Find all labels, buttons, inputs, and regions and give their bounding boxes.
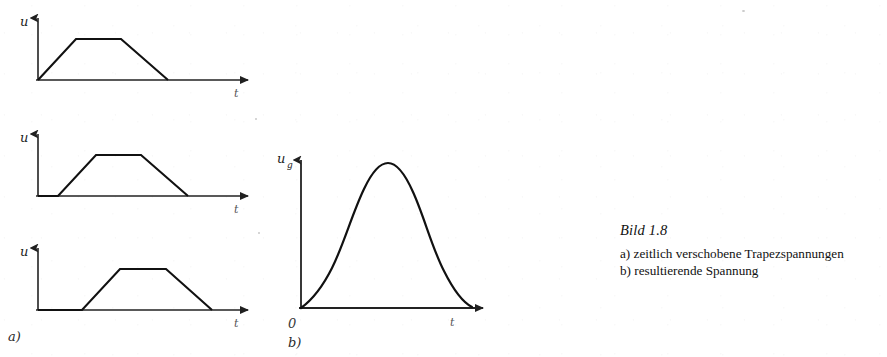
trapezoid-waveform-1: [38, 39, 168, 80]
y-axis-label-3: u: [20, 244, 28, 259]
figure-drawing: u t u t u t a) u g 0 t: [0, 0, 887, 357]
x-axis-label-2: t: [234, 203, 239, 216]
scan-speck: [742, 10, 745, 12]
y-axis-label-2: u: [20, 130, 28, 145]
scan-speck: [255, 118, 257, 120]
chart-trapezoid-3: u t: [20, 244, 248, 330]
y-axis-label-1: u: [20, 14, 28, 29]
chart-trapezoid-1: u t: [20, 14, 248, 100]
x-axis-label-3: t: [234, 317, 239, 330]
y-axis-label-b: u: [277, 151, 285, 166]
trapezoid-waveform-3: [38, 269, 212, 310]
x-axis-label-b: t: [450, 316, 455, 329]
figure-caption: Bild 1.8 a) zeitlich verschobene Trapezs…: [620, 222, 882, 279]
caption-title: Bild 1.8: [620, 222, 882, 239]
origin-label-b: 0: [288, 316, 296, 331]
caption-line-a: a) zeitlich verschobene Trapezspannungen: [620, 246, 882, 263]
caption-line-b: b) resultierende Spannung: [620, 263, 882, 280]
resultant-waveform: [301, 163, 472, 308]
x-axis-label-1: t: [234, 87, 239, 100]
panel-label-a: a): [8, 329, 21, 344]
trapezoid-waveform-2: [38, 155, 188, 196]
panel-label-b: b): [288, 335, 301, 350]
scan-speck: [258, 232, 260, 234]
y-axis-label-b-subscript: g: [287, 160, 293, 170]
chart-trapezoid-2: u t: [20, 130, 248, 216]
chart-resultant: u g 0 t: [277, 151, 483, 331]
figure-container: u t u t u t a) u g 0 t: [0, 0, 887, 357]
